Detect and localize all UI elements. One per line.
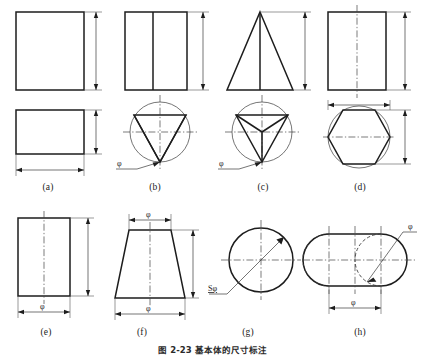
panel-c-top-view — [225, 95, 299, 169]
panel-a-front-rectangle — [16, 12, 84, 90]
panel-f-top-diameter-label: φ — [146, 210, 151, 219]
panel-label-b: (b) — [135, 182, 175, 192]
panel-h-length-label: φ — [351, 298, 356, 307]
panel-a-width-dimension — [16, 168, 84, 172]
panel-b-front-rectangle — [125, 12, 187, 90]
panel-label-f: (f) — [122, 327, 162, 337]
panel-h-diameter-label: φ — [408, 222, 413, 231]
panel-a-height-dimension — [94, 12, 98, 90]
panel-d-height-dimension — [403, 12, 407, 90]
panel-c-diameter-leader — [218, 162, 262, 169]
panel-f-bottom-diameter-label: φ — [146, 304, 151, 313]
figure-panel-g: Sφ — [205, 208, 310, 326]
panel-g-sphere-diameter-leader — [209, 237, 284, 294]
panel-a-depth-dimension — [94, 110, 98, 154]
panel-label-c: (c) — [243, 182, 283, 192]
panel-a-top-rectangle — [16, 110, 84, 154]
figure-panel-h: φ φ — [303, 208, 423, 326]
panel-e-diameter-label: φ — [40, 302, 45, 311]
panel-b-chord-2 — [160, 115, 186, 162]
panel-d-across-corners-dimension — [328, 103, 390, 107]
panel-b-diameter-leader — [116, 162, 160, 169]
panel-b-top-view — [123, 95, 197, 169]
panel-c-diameter-label: φ — [219, 159, 224, 168]
panel-d-top-view — [323, 106, 395, 168]
panel-b-chord-1 — [134, 115, 160, 162]
figure-panel-e: φ — [8, 208, 108, 326]
panel-h-diameter-leader — [367, 232, 417, 282]
figure-panel-d — [315, 6, 423, 186]
panel-label-g: (g) — [228, 327, 268, 337]
figure-panel-a — [8, 6, 108, 186]
figure-panel-f: φ φ — [105, 208, 210, 326]
panel-c-height-dimension — [303, 12, 307, 90]
panel-e-height-dimension — [86, 218, 90, 296]
panel-g-sphere-diameter-label: Sφ — [208, 284, 217, 293]
panel-b-height-dimension — [201, 12, 205, 90]
panel-label-e: (e) — [26, 327, 66, 337]
figure-panel-b: φ — [115, 6, 215, 186]
panel-f-height-dimension — [191, 230, 195, 298]
panel-b-diameter-label: φ — [117, 159, 122, 168]
figure-panel-c: φ — [215, 6, 320, 186]
panel-label-a: (a) — [28, 182, 68, 192]
panel-label-h: (h) — [340, 327, 380, 337]
panel-d-across-flats-dimension — [403, 110, 407, 164]
panel-label-d: (d) — [340, 182, 380, 192]
figure-caption: 图 2-23 基本体的尺寸标注 — [0, 344, 425, 355]
